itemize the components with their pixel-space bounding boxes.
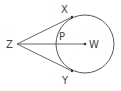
label-z: Z xyxy=(6,39,13,50)
label-x: X xyxy=(61,4,68,15)
label-y: Y xyxy=(61,75,69,86)
label-p: P xyxy=(59,31,65,42)
point-y-dot xyxy=(71,70,73,72)
tangent-segment-zy xyxy=(17,44,72,71)
center-w-dot xyxy=(84,43,87,46)
point-x-dot xyxy=(71,16,73,18)
label-w: W xyxy=(89,39,99,50)
tangent-circle-diagram: Z X Y P W xyxy=(0,0,121,91)
